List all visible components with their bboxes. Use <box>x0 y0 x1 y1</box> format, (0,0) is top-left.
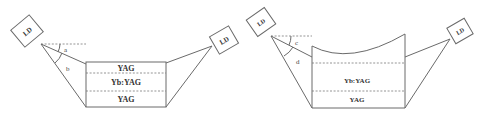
angle-arc-c <box>289 36 291 45</box>
pump-ray <box>166 46 212 107</box>
angle-label-a: a <box>64 46 68 54</box>
ld-label: LD <box>21 26 34 38</box>
angle-label-d: d <box>296 58 300 66</box>
layer-label-top: YAG <box>117 64 134 73</box>
right-diagram: LD c d Yb:YAG YAG LD <box>246 7 473 108</box>
ld-label: LD <box>256 17 267 27</box>
pump-ray <box>405 39 450 57</box>
angle-label-b: b <box>66 65 70 73</box>
angle-arc-b <box>55 53 62 63</box>
left-diagram: LD a b YAG Yb:YAG YAG LD <box>11 15 239 107</box>
left-laser-diode-1: LD <box>11 15 44 47</box>
angle-label-c: c <box>295 39 298 47</box>
ld-label: LD <box>218 35 230 47</box>
right-laser-diode-2: LD <box>447 18 473 44</box>
pump-ray <box>405 39 450 108</box>
angle-arc-a <box>58 44 60 52</box>
pumping-diagram: LD a b YAG Yb:YAG YAG LD LD <box>0 0 487 114</box>
left-laser-diode-2: LD <box>246 7 275 36</box>
layer-label-bottom: YAG <box>117 95 134 104</box>
right-laser-diode-1: LD <box>209 26 238 54</box>
angle-arc-d <box>284 47 293 56</box>
layer-label-bottom: YAG <box>350 96 365 104</box>
layer-label-middle: Yb:YAG <box>344 77 371 85</box>
layer-label-middle: Yb:YAG <box>111 78 141 87</box>
ld-label: LD <box>455 26 466 36</box>
